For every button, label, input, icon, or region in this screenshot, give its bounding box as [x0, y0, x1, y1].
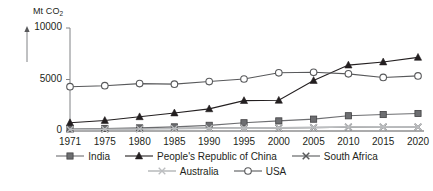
x-axis-tick-label: 1995: [227, 136, 261, 147]
data-point-circle-marker: [244, 168, 251, 175]
x-axis-tick-label: 2020: [401, 136, 433, 147]
legend-marker-cross-light-icon: [147, 165, 177, 177]
data-point-triangle-marker: [310, 77, 317, 84]
data-point-circle-marker: [415, 73, 422, 80]
series-usa: [67, 69, 422, 90]
x-axis-tick-label: 2005: [297, 136, 331, 147]
x-axis-tick-label: 1975: [88, 136, 122, 147]
legend-marker-triangle-icon: [124, 150, 154, 162]
legend-marker-cross-icon: [291, 150, 321, 162]
legend-item-people-s-republic-of-china[interactable]: People's Republic of China: [124, 150, 277, 162]
data-point-square-marker: [311, 116, 317, 122]
legend-label: Australia: [180, 166, 219, 177]
data-point-circle-marker: [310, 69, 317, 76]
legend-label: South Africa: [324, 151, 378, 162]
data-point-circle-marker: [171, 81, 178, 88]
data-point-circle-marker: [380, 74, 387, 81]
data-point-square-marker: [67, 153, 73, 159]
x-axis-tick-label: 2000: [262, 136, 296, 147]
data-point-square-marker: [380, 111, 386, 117]
series-layer: [66, 53, 421, 132]
legend-row: AustraliaUSA: [140, 165, 293, 177]
x-axis-tick-label: 1980: [123, 136, 157, 147]
series-line: [70, 57, 418, 122]
x-axis-tick-label: 2015: [366, 136, 400, 147]
co2-emissions-line-chart: Mt CO2 0500010000 1971197519801985199019…: [0, 0, 433, 191]
legend-marker-circle-icon: [233, 165, 263, 177]
data-point-circle-marker: [67, 83, 74, 90]
legend-label: India: [88, 151, 110, 162]
legend-item-usa[interactable]: USA: [233, 165, 287, 177]
data-point-circle-marker: [136, 80, 143, 87]
y-axis-tick-label: 5000: [14, 73, 62, 84]
data-point-square-marker: [276, 118, 282, 124]
data-point-circle-marker: [206, 78, 213, 85]
y-axis-tick-label: 0: [14, 124, 62, 135]
x-axis-tick-label: 1990: [192, 136, 226, 147]
data-point-square-marker: [345, 113, 351, 119]
data-point-circle-marker: [345, 71, 352, 78]
legend-marker-square-icon: [55, 150, 85, 162]
legend-item-south-africa[interactable]: South Africa: [291, 150, 378, 162]
y-axis-tick-label: 10000: [14, 21, 62, 32]
chart-legend: IndiaPeople's Republic of ChinaSouth Afr…: [0, 150, 433, 177]
x-axis-tick-label: 1971: [53, 136, 87, 147]
x-axis-tick-label: 1985: [157, 136, 191, 147]
data-point-square-marker: [415, 110, 421, 116]
legend-item-australia[interactable]: Australia: [147, 165, 219, 177]
data-point-circle-marker: [241, 76, 248, 83]
data-point-triangle-marker: [414, 53, 421, 60]
data-point-circle-marker: [102, 82, 109, 89]
legend-label: USA: [266, 166, 287, 177]
x-axis-tick-label: 2010: [331, 136, 365, 147]
data-point-circle-marker: [276, 70, 283, 77]
legend-row: IndiaPeople's Republic of ChinaSouth Afr…: [48, 150, 384, 162]
legend-item-india[interactable]: India: [55, 150, 110, 162]
legend-label: People's Republic of China: [157, 151, 277, 162]
